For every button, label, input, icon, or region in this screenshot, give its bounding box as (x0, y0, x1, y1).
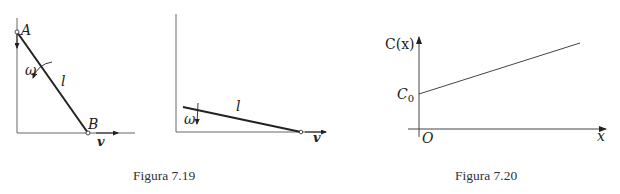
label-l: l (236, 98, 240, 114)
caption-figure-7-20: Figura 7.20 (455, 168, 517, 183)
label-v: v (97, 134, 105, 149)
origin-label: O (422, 130, 434, 146)
figure-7-19-right-panel: ω l v (176, 14, 326, 145)
figure-canvas: A B l ω v ω l v Figura 7.19 C(x) C0 O x … (0, 0, 620, 194)
function-line (419, 43, 580, 94)
x-axis-label: x (597, 128, 605, 144)
point-a (15, 30, 19, 34)
label-l: l (61, 73, 65, 89)
label-omega: ω (25, 62, 37, 78)
rod (17, 32, 88, 133)
intercept-subscript: 0 (408, 93, 414, 104)
rod (183, 107, 301, 132)
caption-figure-7-19: Figura 7.19 (133, 168, 195, 183)
intercept-label: C0 (397, 86, 414, 104)
figure-7-19-left-panel: A B l ω v (15, 18, 135, 149)
intercept-text: C (397, 86, 408, 102)
rotation-arrow-icon (197, 103, 198, 124)
label-b: B (87, 116, 98, 132)
rod-end-point (299, 130, 303, 134)
label-omega: ω (184, 111, 196, 127)
figure-7-20-graph: C(x) C0 O x (385, 36, 606, 146)
label-v: v (313, 130, 321, 145)
label-a: A (19, 22, 31, 38)
y-axis-label: C(x) (385, 36, 415, 52)
